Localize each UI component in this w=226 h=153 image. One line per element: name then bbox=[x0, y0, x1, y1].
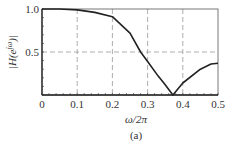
x-tick-label: 0.2 bbox=[106, 98, 120, 110]
x-tick-label: 0.1 bbox=[70, 98, 84, 110]
y-tick-label: 0.5 bbox=[25, 46, 39, 58]
x-tick-label: 0.5 bbox=[211, 98, 225, 110]
x-tick-label: 0.3 bbox=[141, 98, 155, 110]
x-tick-label: 0 bbox=[39, 98, 45, 110]
x-axis-label: ω/2π bbox=[125, 113, 147, 125]
magnitude-response-chart: 00.10.20.30.40.50.51.0ω/2π(a)|H(ejω)| bbox=[0, 0, 226, 153]
y-tick-label: 1.0 bbox=[25, 3, 39, 15]
x-tick-label: 0.4 bbox=[176, 98, 190, 110]
y-axis-label: |H(ejω)| bbox=[5, 35, 19, 69]
figure-caption: (a) bbox=[130, 129, 143, 142]
